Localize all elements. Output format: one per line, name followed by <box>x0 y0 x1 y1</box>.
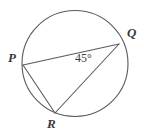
point-label-p: P <box>8 51 16 64</box>
geometry-canvas <box>0 0 144 134</box>
angle-measure-label: 45° <box>75 52 92 64</box>
point-label-r: R <box>47 117 56 130</box>
chord-pq <box>23 44 119 65</box>
chord-pr <box>23 65 55 113</box>
geometry-figure: P Q R 45° <box>0 0 144 134</box>
point-label-q: Q <box>127 26 136 39</box>
